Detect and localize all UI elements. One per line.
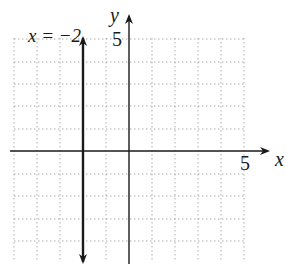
grid	[14, 38, 246, 262]
y-tick-label: 5	[112, 28, 122, 50]
x-tick-label: 5	[240, 152, 250, 174]
coordinate-graph: y 5 5 x x = −2	[0, 0, 286, 264]
line-label: x = −2	[27, 25, 82, 46]
y-axis-label: y	[108, 4, 119, 27]
x-axis-label: x	[274, 148, 284, 170]
